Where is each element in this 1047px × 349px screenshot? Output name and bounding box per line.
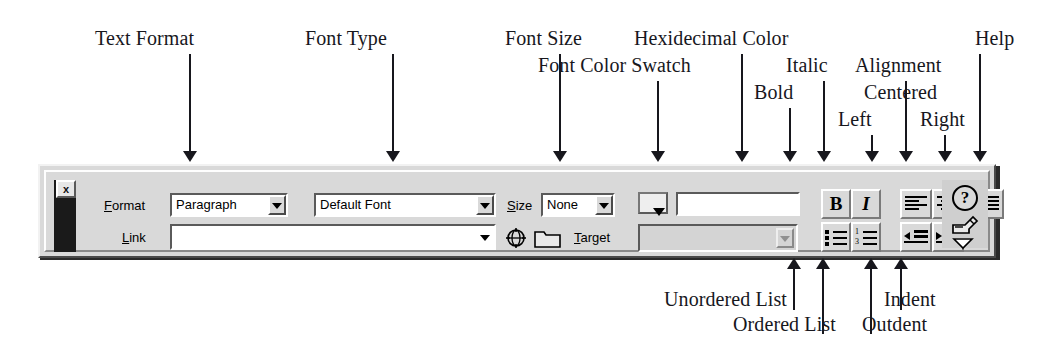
- leader-text-format: [189, 54, 191, 152]
- unordered-list-icon: [823, 224, 849, 250]
- hex-color-input[interactable]: [676, 192, 800, 216]
- link-combo-arrow[interactable]: [476, 228, 494, 246]
- folder-icon[interactable]: [534, 227, 562, 249]
- size-combo-arrow[interactable]: [595, 195, 613, 215]
- leader-bold: [789, 108, 791, 152]
- arrowhead-align-left: [865, 151, 879, 162]
- link-input[interactable]: [170, 224, 496, 250]
- outdent-icon: [902, 224, 930, 250]
- arrowhead-align-center: [899, 151, 913, 162]
- font-combo-value: Default Font: [320, 197, 391, 212]
- align-left-button[interactable]: [900, 189, 932, 219]
- annotation-hexidecimal-color: Hexidecimal Color: [634, 27, 788, 50]
- annotation-right: Right: [920, 108, 965, 131]
- leader-align-right: [944, 135, 946, 152]
- unordered-list-button[interactable]: [821, 222, 851, 252]
- ordered-list-number-2: 3: [855, 239, 859, 245]
- annotation-left: Left: [838, 108, 872, 131]
- target-combo-arrow[interactable]: [776, 228, 794, 248]
- size-label: Size: [507, 198, 532, 213]
- annotation-centered: Centered: [864, 81, 937, 104]
- globe-target-icon[interactable]: [504, 226, 528, 250]
- leader-hexidecimal-color: [741, 54, 743, 152]
- ordered-list-button[interactable]: 1 3: [851, 222, 881, 252]
- arrowhead-align-right: [938, 151, 952, 162]
- close-button[interactable]: x: [56, 180, 76, 198]
- ordered-list-number-1: 1: [855, 229, 859, 235]
- annotation-alignment: Alignment: [855, 54, 941, 77]
- format-toolbar: x Format Paragraph Default Font Size Non…: [38, 164, 996, 258]
- leader-font-size: [559, 54, 561, 152]
- size-combo-value: None: [547, 197, 578, 212]
- annotation-help: Help: [975, 27, 1014, 50]
- font-combo[interactable]: Default Font: [314, 193, 496, 217]
- target-combo[interactable]: [638, 224, 798, 252]
- target-label: Target: [574, 230, 610, 245]
- arrowhead-bold: [783, 151, 797, 162]
- annotation-font-size: Font Size: [505, 27, 582, 50]
- arrowhead-italic: [817, 151, 831, 162]
- more-chevron-icon[interactable]: [952, 236, 974, 250]
- annotation-italic: Italic: [786, 54, 828, 77]
- annotation-outdent: Outdent: [862, 313, 927, 336]
- toolbar-inner-frame: x Format Paragraph Default Font Size Non…: [44, 170, 990, 252]
- arrowhead-font-type: [386, 151, 400, 162]
- help-button[interactable]: ?: [952, 185, 978, 211]
- chevron-down-icon: [599, 203, 609, 209]
- annotation-ordered-list: Ordered List: [733, 313, 836, 336]
- edit-stamp-icon[interactable]: [951, 213, 979, 237]
- arrowhead-font-size: [553, 151, 567, 162]
- leader-align-center: [905, 81, 907, 152]
- align-left-icon: [902, 191, 930, 217]
- chevron-down-icon: [780, 236, 790, 242]
- leader-unordered-list: [793, 268, 795, 310]
- font-combo-arrow[interactable]: [476, 195, 494, 215]
- chevron-down-icon: [480, 235, 490, 241]
- leader-font-color-swatch: [657, 81, 659, 152]
- leader-align-left: [871, 135, 873, 152]
- format-combo-value: Paragraph: [176, 197, 237, 212]
- italic-icon: I: [853, 191, 879, 217]
- italic-button[interactable]: I: [851, 189, 881, 219]
- color-swatch-chevron-down-icon[interactable]: [653, 208, 665, 216]
- annotation-bold: Bold: [754, 81, 793, 104]
- annotation-font-type: Font Type: [305, 27, 387, 50]
- leader-font-type: [392, 54, 394, 152]
- bold-button[interactable]: B: [821, 189, 851, 219]
- leader-help: [979, 54, 981, 152]
- link-label: Link: [122, 230, 146, 245]
- arrowhead-help: [973, 151, 987, 162]
- format-combo-arrow[interactable]: [268, 195, 286, 215]
- ordered-list-icon: 1 3: [853, 224, 879, 250]
- annotation-unordered-list: Unordered List: [664, 288, 787, 311]
- annotation-indent: Indent: [884, 288, 936, 311]
- figure-canvas: Text Format Font Type Font Size Hexideci…: [0, 0, 1047, 349]
- arrowhead-text-format: [183, 151, 197, 162]
- leader-italic: [823, 81, 825, 152]
- outdent-button[interactable]: [900, 222, 932, 252]
- chevron-down-icon: [480, 203, 490, 209]
- annotation-text-format: Text Format: [95, 27, 194, 50]
- bold-icon: B: [823, 191, 849, 217]
- arrowhead-font-color-swatch: [651, 151, 665, 162]
- format-label: Format: [104, 198, 145, 213]
- arrowhead-hexidecimal-color: [735, 151, 749, 162]
- chevron-down-icon: [272, 203, 282, 209]
